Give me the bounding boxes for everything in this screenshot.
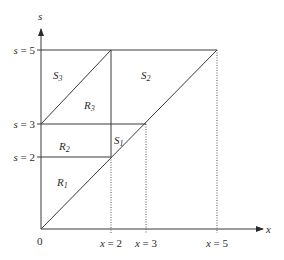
tick-s2: s = 2 xyxy=(14,151,36,163)
region-s3-label: S3 xyxy=(53,69,63,83)
region-diagram: s x 0 s = 5 s = 3 s = 2 x = 2 x = 3 x = … xyxy=(0,0,284,260)
tick-s5: s = 5 xyxy=(14,44,36,56)
s-axis-label: s xyxy=(38,10,42,22)
origin-label: 0 xyxy=(37,235,43,247)
region-s1-label: S1 xyxy=(114,134,124,148)
tick-s3: s = 3 xyxy=(14,118,36,130)
tick-x3: x = 3 xyxy=(134,237,158,249)
diagonal-s-eq-x-plus-3 xyxy=(41,50,111,124)
region-r3-label: R3 xyxy=(83,99,95,113)
region-s2-label: S2 xyxy=(141,69,151,83)
diagonal-s-eq-x xyxy=(41,50,217,229)
region-r1-label: R1 xyxy=(56,176,68,190)
tick-x5: x = 5 xyxy=(205,237,229,249)
x-axis-label: x xyxy=(265,223,271,235)
tick-x2: x = 2 xyxy=(99,237,122,249)
region-r2-label: R2 xyxy=(58,140,70,154)
